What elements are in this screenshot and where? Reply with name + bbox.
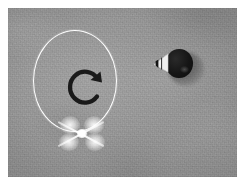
drone [55,109,110,159]
dark-object-highlight [180,66,189,73]
clockwise-rotation-arrow-icon [64,65,108,109]
dark-object-body [166,49,193,78]
photo-frame [8,8,237,177]
dark-object-cone-marker [153,53,169,73]
dark-object [148,40,210,98]
drone-body [77,129,87,138]
screenshot-page [0,0,245,185]
